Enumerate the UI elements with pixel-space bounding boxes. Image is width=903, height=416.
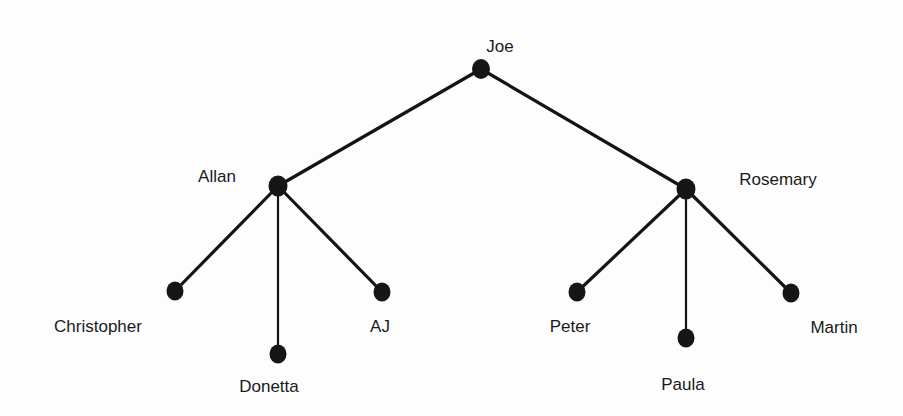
node-joe[interactable] xyxy=(472,59,490,79)
node-allan[interactable] xyxy=(269,176,288,197)
edge-joe-to-rosemary xyxy=(481,69,686,189)
tree-svg-canvas: JoeAllanRosemaryChristopherDonettaAJPete… xyxy=(0,0,903,416)
node-label-rosemary: Rosemary xyxy=(739,170,817,189)
node-label-christopher: Christopher xyxy=(54,317,142,336)
node-aj[interactable] xyxy=(374,283,391,302)
edge-rosemary-to-martin xyxy=(686,189,791,293)
family-tree-diagram: JoeAllanRosemaryChristopherDonettaAJPete… xyxy=(0,0,903,416)
edge-joe-to-allan xyxy=(278,69,481,186)
node-christopher[interactable] xyxy=(167,282,184,301)
node-label-paula: Paula xyxy=(661,375,705,394)
node-rosemary[interactable] xyxy=(677,179,696,200)
edge-allan-to-christopher xyxy=(175,186,278,291)
node-peter[interactable] xyxy=(569,283,586,302)
node-label-allan: Allan xyxy=(198,167,236,186)
edge-rosemary-to-peter xyxy=(577,189,686,292)
edges-group xyxy=(175,69,791,354)
edge-allan-to-aj xyxy=(278,186,382,292)
node-label-peter: Peter xyxy=(550,317,591,336)
labels-group: JoeAllanRosemaryChristopherDonettaAJPete… xyxy=(54,37,858,396)
nodes-group xyxy=(167,59,800,364)
node-paula[interactable] xyxy=(678,329,695,348)
node-label-aj: AJ xyxy=(370,317,390,336)
node-martin[interactable] xyxy=(783,284,800,303)
node-label-donetta: Donetta xyxy=(239,377,299,396)
node-donetta[interactable] xyxy=(270,345,287,364)
node-label-joe: Joe xyxy=(486,37,513,56)
node-label-martin: Martin xyxy=(810,318,857,337)
